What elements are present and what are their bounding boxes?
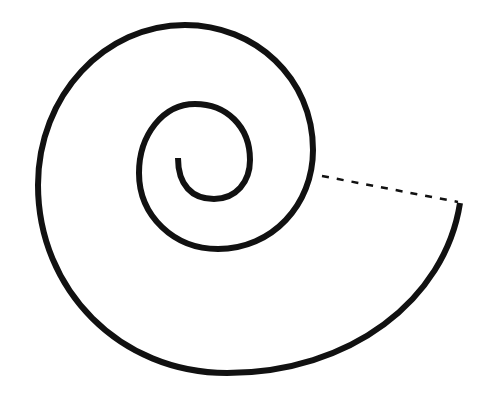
spiral-curve [38, 25, 460, 373]
dashed-closing-line [322, 176, 458, 202]
spiral-drawing [0, 0, 491, 397]
spiral-figure [0, 0, 491, 397]
